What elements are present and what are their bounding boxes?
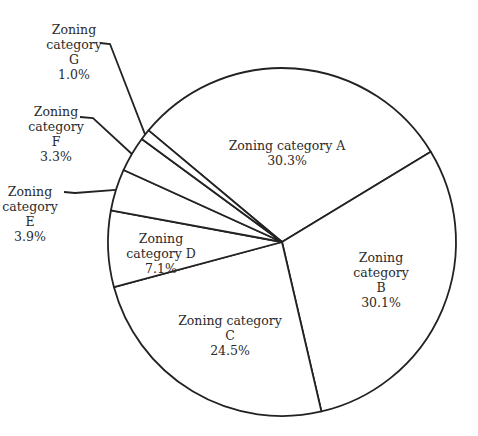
label-f-line2: category (26, 119, 86, 134)
label-category-g: Zoning category G 1.0% (44, 22, 104, 82)
label-d-line1: Zoning (120, 231, 202, 246)
label-category-b: Zoning category B 30.1% (346, 250, 416, 310)
label-e-value: 3.9% (0, 229, 60, 244)
label-category-d: Zoning category D 7.1% (120, 231, 202, 276)
label-category-c: Zoning category C 24.5% (172, 313, 288, 358)
label-e-line2: category (0, 199, 60, 214)
label-c-value: 24.5% (172, 343, 288, 358)
label-a-value: 30.3% (222, 153, 352, 168)
label-f-value: 3.3% (26, 149, 86, 164)
label-g-value: 1.0% (44, 67, 104, 82)
label-f-line1: Zoning (26, 104, 86, 119)
label-c-line2: C (172, 328, 288, 343)
label-d-line2: category D (120, 246, 202, 261)
leader-line-category-e (64, 190, 116, 193)
label-g-line2: category (44, 37, 104, 52)
label-d-value: 7.1% (120, 261, 202, 276)
label-b-value: 30.1% (346, 295, 416, 310)
label-category-f: Zoning category F 3.3% (26, 104, 86, 164)
label-e-line3: E (0, 214, 60, 229)
label-e-line1: Zoning (0, 184, 60, 199)
label-category-e: Zoning category E 3.9% (0, 184, 60, 244)
label-b-line2: category (346, 265, 416, 280)
leader-line-category-g (100, 43, 145, 135)
label-g-line1: Zoning (44, 22, 104, 37)
label-b-line1: Zoning (346, 250, 416, 265)
label-g-line3: G (44, 52, 104, 67)
label-a-name: Zoning category A (222, 138, 352, 153)
label-category-a: Zoning category A 30.3% (222, 138, 352, 168)
label-c-line1: Zoning category (172, 313, 288, 328)
label-f-line3: F (26, 134, 86, 149)
leader-line-category-f (80, 117, 132, 154)
label-b-line3: B (346, 280, 416, 295)
